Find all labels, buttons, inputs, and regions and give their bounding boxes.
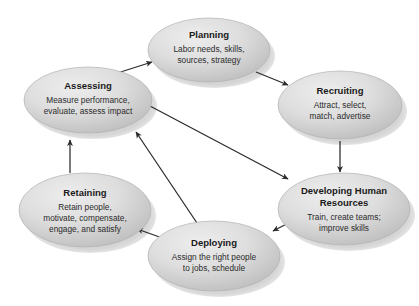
node-recruiting[interactable]: Recruiting Attract, select, match, adver…	[278, 71, 402, 139]
node-retaining-title: Retaining	[63, 187, 106, 198]
node-developing-human-resources-desc-line-2: improve skills	[319, 223, 369, 233]
node-planning-desc-line-2: sources, strategy	[177, 55, 241, 65]
node-retaining-desc-line-1: Retain people,	[58, 202, 112, 212]
node-planning-title: Planning	[189, 29, 229, 40]
node-developing-human-resources-title-line-2: Resources	[320, 197, 369, 208]
node-developing-human-resources-shape[interactable]	[278, 173, 410, 245]
node-assessing-desc-line-1: Measure performance,	[46, 95, 129, 105]
node-developing-human-resources-title-line-1: Developing Human	[301, 185, 387, 196]
hrm-cycle-diagram: Planning Labor needs, skills, sources, s…	[0, 0, 419, 306]
node-deploying-desc-line-2: to jobs, schedule	[183, 263, 246, 273]
node-developing-human-resources-desc-line-1: Train, create teams;	[307, 212, 380, 222]
node-deploying-desc-line-1: Assign the right people	[172, 252, 257, 262]
node-recruiting-title: Recruiting	[317, 85, 364, 96]
connector-assessing-to-developing-human-resources	[150, 106, 288, 179]
node-developing-human-resources[interactable]: Developing Human Resources Train, create…	[278, 173, 410, 245]
connector-planning-to-recruiting	[256, 72, 288, 85]
node-assessing-desc-line-2: evaluate, assess impact	[44, 106, 133, 116]
node-deploying[interactable]: Deploying Assign the right people to job…	[148, 221, 280, 291]
node-planning[interactable]: Planning Labor needs, skills, sources, s…	[148, 18, 270, 82]
node-recruiting-desc-line-2: match, advertise	[310, 111, 371, 121]
node-planning-desc-line-1: Labor needs, skills,	[173, 44, 244, 54]
node-retaining-desc-line-2: motivate, compensate,	[43, 213, 126, 223]
node-recruiting-desc-line-1: Attract, select,	[314, 100, 367, 110]
node-retaining-desc-line-3: engage, and satisfy	[49, 224, 122, 234]
node-assessing[interactable]: Assessing Measure performance, evaluate,…	[24, 67, 152, 133]
node-assessing-title: Assessing	[64, 80, 112, 91]
node-retaining[interactable]: Retaining Retain people, motivate, compe…	[19, 173, 151, 247]
diagram-canvas: Planning Labor needs, skills, sources, s…	[0, 0, 419, 306]
node-deploying-title: Deploying	[191, 237, 237, 248]
